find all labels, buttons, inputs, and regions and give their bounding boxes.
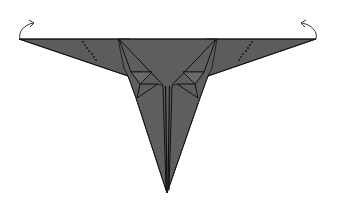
- diagram-canvas: paper airplane: [0, 0, 337, 222]
- plane-body: [19, 39, 316, 193]
- origami-airplane-diagram: [0, 0, 337, 222]
- center-body: [118, 39, 217, 193]
- fold-up-arrow-right-icon: [301, 20, 316, 39]
- fold-up-arrow-left-icon: [20, 20, 34, 39]
